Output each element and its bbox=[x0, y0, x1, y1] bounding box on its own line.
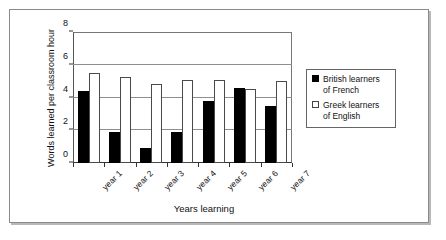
bar bbox=[78, 91, 89, 163]
bar bbox=[140, 148, 151, 163]
legend-entry: British learners of French bbox=[312, 74, 390, 95]
bar-group bbox=[104, 32, 135, 163]
legend-entry: Greek learners of English bbox=[312, 100, 390, 121]
bar-groups bbox=[73, 32, 292, 163]
x-axis-tick-mark bbox=[167, 163, 168, 167]
bar bbox=[109, 132, 120, 163]
legend-label: Greek learners of English bbox=[323, 100, 379, 121]
x-axis-tick-mark bbox=[73, 163, 74, 167]
y-axis-tick-label: 2 bbox=[63, 117, 68, 126]
bar-group bbox=[198, 32, 229, 163]
y-axis-tick-label: 6 bbox=[63, 51, 68, 60]
x-axis-tick-mark bbox=[292, 163, 293, 167]
x-axis-tick-mark bbox=[229, 163, 230, 167]
bar bbox=[265, 106, 276, 163]
bar bbox=[214, 80, 225, 164]
legend-swatch-icon bbox=[312, 101, 319, 108]
y-axis-tick-label: 8 bbox=[63, 19, 68, 28]
bar bbox=[276, 81, 287, 163]
bar bbox=[89, 73, 100, 163]
x-axis-tick-mark bbox=[261, 163, 262, 167]
bar-group bbox=[167, 32, 198, 163]
bar bbox=[245, 89, 256, 163]
y-axis-tick-label: 4 bbox=[63, 84, 68, 93]
bar bbox=[182, 80, 193, 164]
bar bbox=[171, 132, 182, 163]
legend-label: British learners of French bbox=[323, 74, 380, 95]
x-axis-tick-mark bbox=[198, 163, 199, 167]
x-axis-title: Years learning bbox=[124, 203, 284, 214]
legend-swatch-icon bbox=[312, 75, 319, 82]
chart-legend: British learners of FrenchGreek learners… bbox=[306, 69, 396, 128]
x-axis-tick-mark bbox=[104, 163, 105, 167]
y-axis-title-text: Words learned per classroom hour bbox=[46, 29, 56, 167]
bar-group bbox=[229, 32, 260, 163]
plot-wrapper: 02468 year 1year 2year 3year 4year 5year… bbox=[73, 32, 292, 163]
bar bbox=[234, 88, 245, 163]
bar bbox=[203, 101, 214, 163]
bar bbox=[120, 77, 131, 163]
bar bbox=[151, 84, 162, 163]
bar-group bbox=[261, 32, 292, 163]
bar-group bbox=[136, 32, 167, 163]
bar-group bbox=[73, 32, 104, 163]
x-axis-tick-mark bbox=[136, 163, 137, 167]
y-axis-tick-label: 0 bbox=[63, 150, 68, 159]
y-axis-title: Words learned per classroom hour bbox=[44, 32, 58, 163]
chart-figure: Words learned per classroom hour 02468 y… bbox=[0, 0, 446, 240]
